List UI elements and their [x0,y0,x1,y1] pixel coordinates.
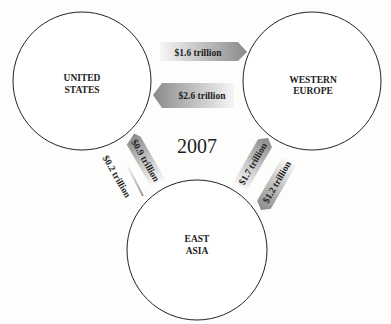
flow-label-we-to-ea: $1.2 trillion [261,159,294,205]
region-label-we-1: WESTERN [289,75,337,85]
flow-label-us-to-ea: $0.2 trillion [101,154,134,200]
region-label-us-2: STATES [64,85,99,95]
region-label-us-1: UNITED [64,73,101,83]
flow-arrow-we-to-us: $2.6 trillion [153,83,234,108]
region-label-ea-2: ASIA [186,246,209,256]
region-label-ea-1: EAST [185,234,210,244]
flow-label-us-to-we: $1.6 trillion [175,48,223,58]
flow-label-we-to-us: $2.6 trillion [179,91,227,101]
year-title: 2007 [177,135,217,157]
flow-arrow-ea-to-us: $0.9 trillion [124,131,165,186]
trade-flow-diagram: UNITED STATES WESTERN EUROPE EAST ASIA $… [0,0,391,324]
flow-label-ea-to-we: $1.7 trillion [237,141,270,187]
flow-arrow-us-to-we: $1.6 trillion [160,42,247,61]
region-label-we-2: EUROPE [293,86,333,96]
